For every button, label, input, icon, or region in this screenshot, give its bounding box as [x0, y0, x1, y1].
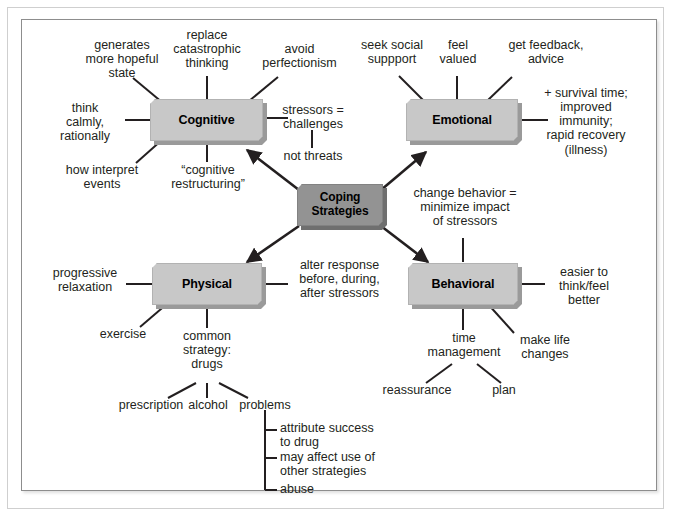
leaf-reassurance: reassurance [374, 383, 460, 397]
leaf-easier-to-think-feel-better: easier to think/feel better [538, 265, 630, 307]
node-label: Coping Strategies [297, 191, 383, 219]
diagram-canvas: Coping Strategies Cognitive Emotional Ph… [0, 0, 679, 524]
leaf-alcohol: alcohol [180, 398, 236, 412]
leaf-may-affect-other-strategies: may affect use of other strategies [280, 450, 450, 478]
leaf-common-strategy-drugs: common strategy: drugs [166, 329, 248, 371]
node-coping-strategies[interactable]: Coping Strategies [297, 184, 383, 226]
leaf-exercise: exercise [92, 327, 154, 341]
leaf-alter-response: alter response before, during, after str… [287, 258, 392, 300]
node-label: Physical [178, 277, 236, 292]
leaf-stressors-equal-challenges: stressors = challenges [272, 103, 354, 131]
node-label: Behavioral [428, 277, 499, 292]
leaf-replace-catastrophic-thinking: replace catastrophic thinking [155, 28, 259, 70]
leaf-abuse: abuse [280, 482, 370, 496]
leaf-make-life-changes: make life changes [506, 333, 584, 361]
node-behavioral[interactable]: Behavioral [408, 263, 518, 305]
leaf-progressive-relaxation: progressive relaxation [44, 266, 126, 294]
leaf-think-calmly-rationally: think calmly, rationally [46, 101, 124, 143]
diagram-page: Coping Strategies Cognitive Emotional Ph… [0, 0, 679, 524]
node-label: Emotional [428, 113, 496, 128]
leaf-attribute-success-to-drug: attribute success to drug [280, 421, 440, 449]
node-label: Cognitive [174, 113, 238, 128]
node-cognitive[interactable]: Cognitive [150, 99, 263, 141]
leaf-time-management: time management [420, 331, 508, 359]
leaf-problems: problems [234, 398, 296, 412]
leaf-feel-valued: feel valued [428, 38, 488, 66]
leaf-survival-time-immunity-recovery: + survival time; improved immunity; rapi… [524, 86, 648, 157]
leaf-avoid-perfectionism: avoid perfectionism [252, 42, 347, 70]
node-physical[interactable]: Physical [152, 263, 262, 305]
leaf-get-feedback-advice: get feedback, advice [490, 38, 602, 66]
leaf-plan: plan [480, 383, 528, 397]
leaf-change-behavior-minimize-impact: change behavior = minimize impact of str… [396, 186, 534, 228]
node-emotional[interactable]: Emotional [406, 99, 518, 141]
leaf-not-threats: not threats [272, 149, 354, 163]
leaf-cognitive-restructuring: “cognitive restructuring” [154, 163, 262, 191]
leaf-how-interpret-events: how interpret events [51, 163, 153, 191]
